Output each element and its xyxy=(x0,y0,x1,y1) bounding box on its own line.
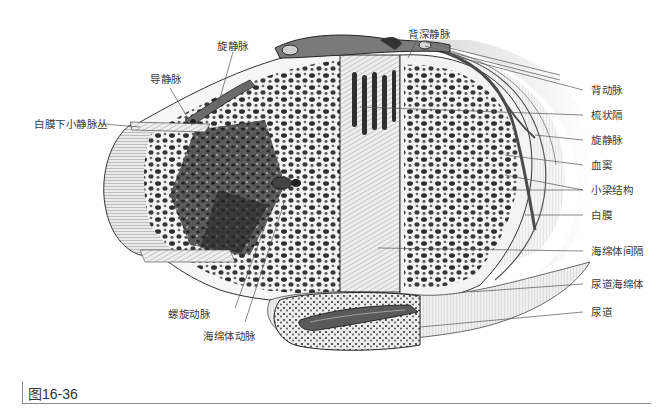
label-circumflex-vein: 旋静脉 xyxy=(591,134,623,146)
label-cavernous-artery: 海绵体动脉 xyxy=(203,330,256,342)
label-dorsal-artery: 背动脉 xyxy=(591,84,623,96)
penis-cross-section-illustration xyxy=(0,0,671,419)
label-sinusoids: 血窦 xyxy=(591,159,612,171)
label-tunica-albuginea: 白膜 xyxy=(591,209,612,221)
anatomy-figure: 白膜下小静脉丛 导静脉 旋静脉 背深静脉 背动脉 梳状隔 旋静脉 血窦 小梁结构… xyxy=(0,0,671,419)
label-deep-dorsal-vein: 背深静脉 xyxy=(408,28,450,40)
label-urethra: 尿道 xyxy=(591,306,612,318)
label-intercavernous-septum: 海绵体间隔 xyxy=(591,245,644,257)
label-pectiniform-septum: 梳状隔 xyxy=(591,109,623,121)
label-emissary-vein: 导静脉 xyxy=(150,73,182,85)
label-circumflex-vein-top: 旋静脉 xyxy=(217,40,249,52)
caption-frame: 图16-36 xyxy=(22,381,651,404)
figure-caption: 图16-36 xyxy=(28,383,78,403)
label-subtunical-venular-plexus: 白膜下小静脉丛 xyxy=(34,118,108,130)
label-helicine-artery: 螺旋动脉 xyxy=(168,308,210,320)
label-corpus-spongiosum: 尿道海绵体 xyxy=(591,278,644,290)
label-trabeculae: 小梁结构 xyxy=(591,184,633,196)
